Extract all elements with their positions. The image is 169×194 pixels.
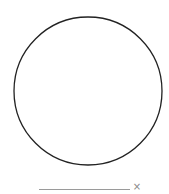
clear-icon[interactable]: × [132,181,142,193]
drawing-canvas[interactable] [0,0,169,194]
circle-shape [14,17,162,165]
text-input-underline[interactable] [39,189,130,190]
